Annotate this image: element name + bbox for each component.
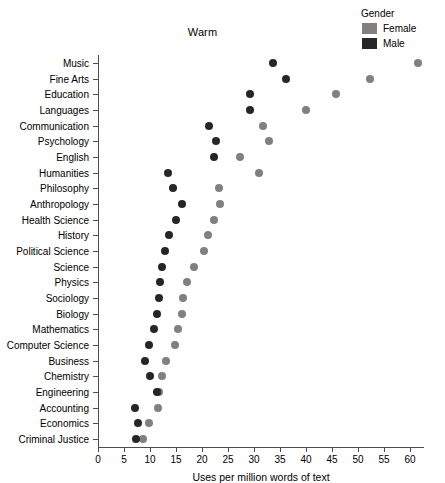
data-point-male — [172, 216, 180, 224]
y-axis-tick — [93, 329, 98, 330]
y-axis-tick — [93, 235, 98, 236]
legend-title: Gender — [361, 8, 439, 19]
y-axis-tick — [93, 439, 98, 440]
y-axis-label: Business — [48, 355, 89, 366]
data-point-female — [190, 263, 198, 271]
y-axis-tick — [93, 361, 98, 362]
x-axis-tick — [98, 447, 99, 452]
data-point-male — [212, 137, 220, 145]
y-axis-tick — [93, 110, 98, 111]
data-point-male — [132, 435, 140, 443]
x-axis-label: 25 — [222, 454, 233, 465]
y-axis-tick — [93, 314, 98, 315]
y-axis-label: History — [58, 230, 89, 241]
y-axis-label: Accounting — [40, 402, 89, 413]
y-axis-label: Anthropology — [30, 198, 89, 209]
x-axis-tick — [150, 447, 151, 452]
data-point-female — [259, 122, 267, 130]
data-point-male — [205, 122, 213, 130]
plot-area: MusicFine ArtsEducationLanguagesCommunic… — [98, 55, 423, 447]
y-axis-tick — [93, 63, 98, 64]
legend-item-male[interactable]: Male — [343, 37, 439, 50]
x-axis-label: 10 — [144, 454, 155, 465]
x-axis-label: 55 — [378, 454, 389, 465]
y-axis-tick — [93, 298, 98, 299]
x-axis-label: 60 — [404, 454, 415, 465]
legend-label: Male — [383, 38, 405, 49]
x-axis-tick — [384, 447, 385, 452]
data-point-female — [302, 106, 310, 114]
y-axis-label: Languages — [40, 104, 90, 115]
y-axis-label: Communication — [20, 120, 89, 131]
y-axis-tick — [93, 141, 98, 142]
data-point-female — [216, 200, 224, 208]
y-axis-tick — [93, 188, 98, 189]
y-axis-tick — [93, 79, 98, 80]
legend-item-female[interactable]: Female — [343, 22, 439, 35]
y-axis-tick — [93, 220, 98, 221]
y-axis-label: Sociology — [46, 293, 89, 304]
x-axis-label: 45 — [326, 454, 337, 465]
y-axis-tick — [93, 282, 98, 283]
y-axis-label: English — [56, 151, 89, 162]
x-axis-label: 20 — [196, 454, 207, 465]
y-axis-tick — [93, 345, 98, 346]
y-axis-label: Economics — [40, 418, 89, 429]
x-axis-tick — [228, 447, 229, 452]
x-axis-label: 30 — [248, 454, 259, 465]
x-axis-tick — [306, 447, 307, 452]
data-point-female — [210, 216, 218, 224]
data-point-female — [200, 247, 208, 255]
data-point-male — [161, 247, 169, 255]
x-axis-title: Uses per million words of text — [98, 471, 424, 483]
data-point-male — [269, 59, 277, 67]
legend-entries: FemaleMale — [343, 22, 439, 50]
data-point-female — [332, 90, 340, 98]
legend-label: Female — [383, 23, 416, 34]
legend: Gender FemaleMale — [343, 8, 439, 52]
data-point-female — [162, 357, 170, 365]
data-point-female — [204, 231, 212, 239]
y-axis-label: Political Science — [16, 246, 89, 257]
y-axis-label: Education — [45, 89, 89, 100]
y-axis-label: Biology — [56, 308, 89, 319]
x-axis-tick — [332, 447, 333, 452]
y-axis-tick — [93, 173, 98, 174]
data-point-male — [153, 388, 161, 396]
y-axis-label: Philosophy — [40, 183, 89, 194]
data-point-male — [156, 278, 164, 286]
y-axis-tick — [93, 204, 98, 205]
y-axis-label: Criminal Justice — [18, 434, 89, 445]
y-axis-tick — [93, 126, 98, 127]
y-axis-label: Computer Science — [7, 340, 89, 351]
x-axis-tick — [358, 447, 359, 452]
x-axis-label: 35 — [274, 454, 285, 465]
x-axis-label: 50 — [352, 454, 363, 465]
y-axis-tick — [93, 157, 98, 158]
data-point-male — [158, 263, 166, 271]
data-point-male — [169, 184, 177, 192]
y-axis-tick — [93, 267, 98, 268]
chart-title-text: Warm — [188, 26, 217, 38]
data-point-male — [146, 372, 154, 380]
y-axis-tick — [93, 251, 98, 252]
x-axis-tick — [124, 447, 125, 452]
legend-swatch-icon — [361, 22, 378, 35]
data-point-male — [145, 341, 153, 349]
data-point-female — [215, 184, 223, 192]
data-point-male — [134, 419, 142, 427]
y-axis-label: Science — [53, 261, 89, 272]
x-axis-label: 15 — [170, 454, 181, 465]
y-axis-label: Humanities — [39, 167, 89, 178]
data-point-male — [131, 404, 139, 412]
data-point-female — [171, 341, 179, 349]
legend-swatch-icon — [361, 37, 378, 50]
y-axis-tick — [93, 94, 98, 95]
x-axis-label: 5 — [121, 454, 127, 465]
data-point-female — [236, 153, 244, 161]
data-point-male — [141, 357, 149, 365]
data-point-male — [153, 310, 161, 318]
x-axis-line — [98, 447, 424, 448]
data-point-female — [255, 169, 263, 177]
data-point-female — [265, 137, 273, 145]
